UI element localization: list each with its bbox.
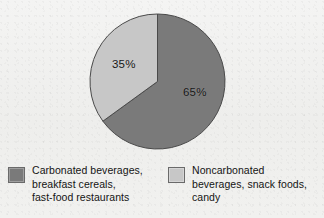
pie-slice-label-noncarbonated: 35% [112, 58, 136, 70]
chart-legend: Carbonated beverages, breakfast cereals,… [0, 164, 324, 218]
legend-label-line: breakfast cereals, [32, 178, 143, 192]
legend-label-line: fast-food restaurants [32, 191, 143, 205]
legend-item-carbonated[interactable]: Carbonated beverages, breakfast cereals,… [8, 164, 160, 205]
legend-swatch-carbonated-icon [8, 167, 25, 183]
pie-slice-label-carbonated: 65% [183, 86, 207, 98]
pie-svg [89, 13, 226, 150]
pie-chart-plot-area [89, 13, 226, 150]
legend-label-carbonated: Carbonated beverages, breakfast cereals,… [32, 164, 143, 205]
legend-label-line: beverages, snack foods, [192, 178, 307, 192]
legend-label-noncarbonated: Noncarbonated beverages, snack foods, ca… [192, 164, 307, 205]
legend-swatch-noncarbonated-icon [168, 167, 185, 183]
legend-label-line: Carbonated beverages, [32, 164, 143, 178]
legend-label-line: Noncarbonated [192, 164, 307, 178]
legend-label-line: candy [192, 191, 307, 205]
pie-chart-figure: 35% 65% Carbonated beverages, breakfast … [0, 0, 324, 218]
legend-item-noncarbonated[interactable]: Noncarbonated beverages, snack foods, ca… [168, 164, 320, 205]
pie-slices-group [90, 14, 225, 149]
